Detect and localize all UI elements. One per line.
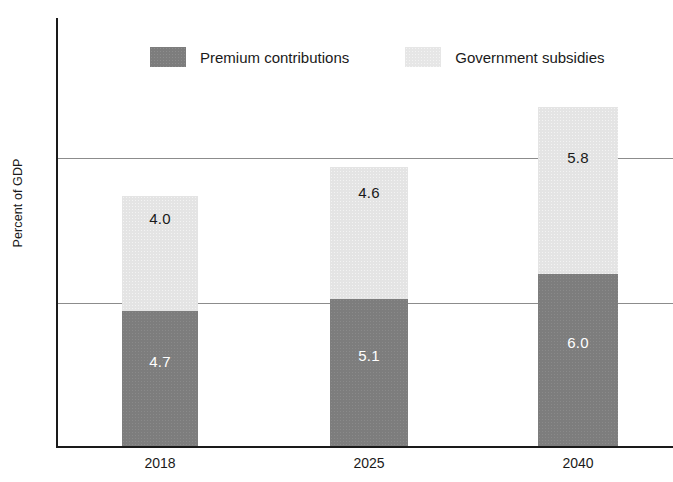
bar-segment-subsidies-2025[interactable]: 4.6 [330, 167, 408, 299]
bar-value-label-premium-2025: 5.1 [330, 347, 408, 364]
bar-value-label-subsidies-2018: 4.0 [122, 210, 198, 227]
legend-item-government-subsidies[interactable]: Government subsidies [405, 47, 604, 67]
legend-item-premium-contributions[interactable]: Premium contributions [150, 47, 349, 67]
bar-group-2040: 6.0 5.8 [538, 107, 618, 446]
bar-segment-premium-2018[interactable]: 4.7 [122, 311, 198, 446]
x-axis-line [56, 446, 673, 448]
bar-value-label-subsidies-2025: 4.6 [330, 184, 408, 201]
plot-area: 4.7 4.0 5.1 4.6 6.0 5.8 [56, 18, 673, 448]
x-tick-label-2018: 2018 [100, 455, 220, 471]
bar-segment-subsidies-2040[interactable]: 5.8 [538, 107, 618, 274]
y-axis-title: Percent of GDP [11, 123, 25, 283]
bar-segment-subsidies-2018[interactable]: 4.0 [122, 196, 198, 311]
bar-group-2025: 5.1 4.6 [330, 167, 408, 446]
bar-value-label-premium-2040: 6.0 [538, 334, 618, 351]
y-axis-line [56, 18, 58, 448]
bar-value-label-subsidies-2040: 5.8 [538, 149, 618, 166]
bar-segment-premium-2025[interactable]: 5.1 [330, 299, 408, 446]
x-tick-label-2040: 2040 [518, 455, 638, 471]
chart-legend: Premium contributions Government subsidi… [150, 47, 604, 67]
bar-value-label-premium-2018: 4.7 [122, 353, 198, 370]
stacked-bar-chart: Percent of GDP 15 10 5 0 4.7 4.0 5.1 4.6 [0, 0, 673, 482]
bar-group-2018: 4.7 4.0 [122, 196, 198, 446]
x-tick-label-2025: 2025 [309, 455, 429, 471]
dark-gray-swatch-icon [150, 47, 186, 67]
legend-label-government-subsidies: Government subsidies [455, 49, 604, 66]
legend-label-premium-contributions: Premium contributions [200, 49, 349, 66]
light-gray-swatch-icon [405, 47, 441, 67]
bar-segment-premium-2040[interactable]: 6.0 [538, 274, 618, 446]
